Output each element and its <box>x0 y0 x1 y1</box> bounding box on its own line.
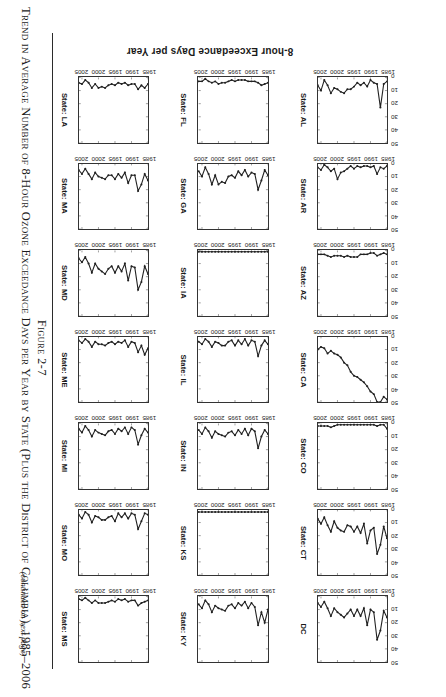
panel-caption-label: State: AR <box>298 179 307 214</box>
x-tick-label: 1985 <box>262 69 276 76</box>
x-tick-label: 1985 <box>142 69 156 76</box>
x-tick-label: 1995 <box>108 242 122 249</box>
plot-area <box>78 249 149 317</box>
x-tick-label: 1995 <box>108 415 122 422</box>
x-tick-label: 2000 <box>330 329 344 336</box>
x-tick-labels: 19851990199520002005 <box>78 323 149 336</box>
x-tick-label: 1990 <box>125 69 139 76</box>
x-tick-label: 1995 <box>108 69 122 76</box>
x-tick-label: 1990 <box>125 588 139 595</box>
x-tick-labels: 19851990199520002005 <box>317 582 388 595</box>
panel-caption: State: MD <box>52 249 76 317</box>
x-tick-label: 1985 <box>262 415 276 422</box>
x-tick-label: 1990 <box>364 242 378 249</box>
x-tick-label: 1985 <box>262 588 276 595</box>
y-tick-label: 10 <box>391 259 398 266</box>
plot-area <box>78 76 149 144</box>
x-tick-label: 1995 <box>347 502 361 509</box>
x-tick-label: 2000 <box>211 156 225 163</box>
panel-caption: State: IL <box>171 336 195 404</box>
panel-caption: State: MS <box>52 595 76 663</box>
y-tick-label: 30 <box>391 113 398 120</box>
panel-caption-label: State: MD <box>60 265 69 301</box>
x-tick-label: 1985 <box>142 242 156 249</box>
plot-area <box>78 509 149 577</box>
y-tick-label: 50 <box>391 313 398 320</box>
y-tick-label: 20 <box>391 446 398 453</box>
y-tick-label: 10 <box>391 432 398 439</box>
x-tick-label: 1990 <box>364 329 378 336</box>
x-tick-label: 2000 <box>330 242 344 249</box>
panel-caption-label: State: AL <box>298 93 307 127</box>
plot-area <box>197 336 268 404</box>
x-tick-labels: 19851990199520002005 <box>78 409 149 422</box>
y-tick-label: 30 <box>391 373 398 380</box>
panel-caption-label: State: MS <box>60 611 69 647</box>
x-tick-label: 2005 <box>194 242 208 249</box>
y-tick-label: 40 <box>391 559 398 566</box>
x-tick-label: 1995 <box>228 156 242 163</box>
x-tick-label: 2000 <box>92 502 106 509</box>
y-tick-label: 0 <box>391 592 394 599</box>
y-tick-label: 50 <box>391 227 398 234</box>
x-tick-label: 1990 <box>245 156 259 163</box>
x-tick-label: 2005 <box>194 415 208 422</box>
x-tick-label: 1985 <box>142 502 156 509</box>
panel-caption: State: LA <box>52 76 76 144</box>
plot-area <box>78 595 149 663</box>
x-tick-label: 1990 <box>364 588 378 595</box>
x-tick-labels: 19851990199520002005 <box>317 409 388 422</box>
panel-caption: State: KS <box>171 509 195 577</box>
small-multiples-grid: DC1985199019952000200501020304050State: … <box>52 63 388 663</box>
y-tick-label: 50 <box>391 140 398 147</box>
y-tick-label: 10 <box>391 346 398 353</box>
x-tick-label: 2005 <box>313 242 327 249</box>
x-tick-label: 2000 <box>211 415 225 422</box>
x-tick-label: 2005 <box>75 242 89 249</box>
x-tick-label: 2005 <box>75 329 89 336</box>
state-panel: State: MA19851990199520002005 <box>52 150 149 231</box>
x-tick-label: 2005 <box>313 329 327 336</box>
state-panel: State: MI19851990199520002005 <box>52 409 149 490</box>
y-tick-label: 20 <box>391 359 398 366</box>
panel-caption-label: State: IL <box>179 354 188 385</box>
x-tick-label: 2005 <box>194 329 208 336</box>
x-tick-label: 2000 <box>330 502 344 509</box>
x-tick-label: 1990 <box>364 415 378 422</box>
plot-area <box>197 76 268 144</box>
y-tick-label: 20 <box>391 186 398 193</box>
x-tick-label: 2005 <box>313 415 327 422</box>
x-tick-label: 2005 <box>194 156 208 163</box>
x-tick-label: 2005 <box>75 415 89 422</box>
panel-caption-label: State: KS <box>179 525 188 560</box>
x-tick-label: 2005 <box>313 69 327 76</box>
x-tick-labels: 19851990199520002005 <box>197 496 268 509</box>
x-tick-label: 1995 <box>347 329 361 336</box>
panel-caption: State: AL <box>291 76 315 144</box>
x-tick-label: 1990 <box>364 156 378 163</box>
x-tick-label: 1995 <box>347 242 361 249</box>
x-tick-label: 2000 <box>92 156 106 163</box>
panel-caption: State: MI <box>52 422 76 490</box>
x-tick-label: 2000 <box>211 329 225 336</box>
x-tick-label: 2000 <box>92 588 106 595</box>
x-tick-label: 1990 <box>245 588 259 595</box>
x-tick-label: 1995 <box>228 69 242 76</box>
x-tick-labels: 19851990199520002005 <box>78 63 149 76</box>
panel-caption-label: State: AZ <box>298 266 307 300</box>
panel-caption: State: MO <box>52 509 76 577</box>
x-tick-label: 1990 <box>125 156 139 163</box>
y-tick-label: 10 <box>391 173 398 180</box>
x-tick-label: 1985 <box>142 415 156 422</box>
x-tick-labels: 19851990199520002005 <box>78 496 149 509</box>
state-panel: State: AR1985199019952000200501020304050 <box>291 150 388 231</box>
x-tick-label: 2005 <box>313 502 327 509</box>
y-tick-label: 0 <box>391 246 394 253</box>
y-tick-label: 40 <box>391 300 398 307</box>
panel-caption: State: CT <box>291 509 315 577</box>
plot-area <box>197 249 268 317</box>
state-panel: State: KY19851990199520002005 <box>171 582 268 663</box>
x-tick-label: 1990 <box>364 502 378 509</box>
x-tick-label: 2005 <box>194 69 208 76</box>
plot-area <box>197 509 268 577</box>
